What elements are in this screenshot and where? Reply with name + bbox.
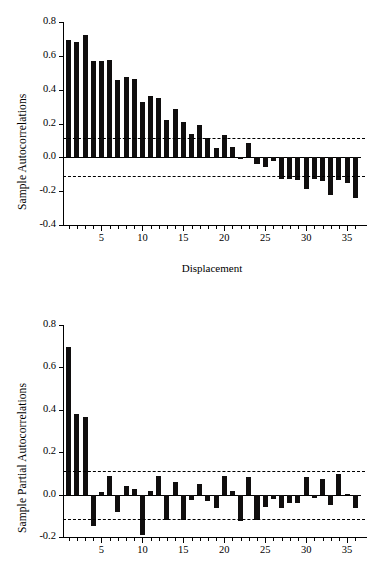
y-tick-label: 0.0 <box>26 150 56 161</box>
x-tick-minor <box>200 226 201 229</box>
bar <box>271 495 276 500</box>
x-tick-minor <box>331 538 332 541</box>
bar <box>336 474 341 495</box>
x-tick-minor <box>339 226 340 229</box>
bar <box>197 125 202 157</box>
x-tick-minor <box>151 538 152 541</box>
bar <box>304 157 309 188</box>
x-tick-minor <box>216 226 217 229</box>
bar <box>132 489 137 494</box>
y-tick <box>59 191 64 192</box>
x-tick-minor <box>93 538 94 541</box>
x-tick-minor <box>110 226 111 229</box>
y-tick-label: 0.8 <box>26 15 56 26</box>
acf-x-axis-label: Displacement <box>63 262 361 274</box>
bar <box>287 495 292 503</box>
x-tick-minor <box>159 226 160 229</box>
x-tick-minor <box>355 538 356 541</box>
bar <box>304 477 309 494</box>
bar <box>107 476 112 495</box>
bar <box>99 61 104 157</box>
bar <box>66 40 71 158</box>
x-tick-minor <box>298 538 299 541</box>
bar <box>263 495 268 507</box>
x-tick-major <box>101 226 102 231</box>
x-tick-label: 10 <box>127 544 157 555</box>
bar <box>328 495 333 505</box>
x-tick-major <box>101 538 102 543</box>
x-tick-minor <box>134 538 135 541</box>
y-tick <box>59 225 64 226</box>
x-tick-minor <box>77 538 78 541</box>
y-tick <box>59 90 64 91</box>
x-tick-minor <box>323 226 324 229</box>
confidence-band-line <box>63 471 365 472</box>
x-tick-label: 5 <box>86 232 116 243</box>
x-tick-minor <box>118 226 119 229</box>
bar <box>246 477 251 495</box>
bar <box>99 492 104 495</box>
bar <box>320 479 325 494</box>
x-tick-minor <box>314 226 315 229</box>
x-tick-major <box>265 226 266 231</box>
y-tick <box>59 537 64 538</box>
x-tick-minor <box>85 226 86 229</box>
bar <box>205 138 210 157</box>
bar <box>124 77 129 157</box>
x-tick-minor <box>134 226 135 229</box>
x-tick-minor <box>314 538 315 541</box>
x-tick-minor <box>355 226 356 229</box>
x-tick-minor <box>232 538 233 541</box>
bar <box>115 495 120 512</box>
y-tick-label: -0.4 <box>26 218 56 229</box>
bar <box>214 495 219 509</box>
x-tick-minor <box>257 226 258 229</box>
x-tick-minor <box>298 226 299 229</box>
y-axis-line <box>63 325 64 537</box>
x-tick-label: 25 <box>250 544 280 555</box>
x-axis-line <box>63 225 367 226</box>
bar <box>230 491 235 494</box>
bar <box>345 157 350 182</box>
bar <box>74 42 79 158</box>
x-tick-major <box>183 538 184 543</box>
x-tick-minor <box>249 226 250 229</box>
x-tick-minor <box>208 226 209 229</box>
bar <box>91 61 96 157</box>
y-tick-label: 0.8 <box>26 318 56 329</box>
x-tick-minor <box>77 226 78 229</box>
x-tick-minor <box>175 538 176 541</box>
x-axis-line <box>63 537 367 538</box>
bar <box>295 495 300 504</box>
bar <box>345 494 350 495</box>
bar <box>353 495 358 508</box>
x-tick-minor <box>126 226 127 229</box>
y-tick-label: 0.4 <box>26 83 56 94</box>
bar <box>107 60 112 157</box>
x-tick-label: 10 <box>127 232 157 243</box>
y-tick <box>59 325 64 326</box>
y-tick <box>59 56 64 57</box>
x-tick-major <box>224 226 225 231</box>
y-tick-label: 0.6 <box>26 49 56 60</box>
bar <box>254 157 259 164</box>
bar <box>148 491 153 494</box>
confidence-band-line <box>63 519 365 520</box>
bar <box>214 148 219 157</box>
bar <box>173 109 178 158</box>
bar <box>164 495 169 520</box>
x-tick-minor <box>167 226 168 229</box>
bar <box>353 157 358 198</box>
x-tick-minor <box>85 538 86 541</box>
x-tick-minor <box>282 226 283 229</box>
y-tick-label: 0.2 <box>26 445 56 456</box>
bar <box>254 495 259 521</box>
x-tick-minor <box>282 538 283 541</box>
bar <box>148 96 153 157</box>
x-tick-minor <box>249 538 250 541</box>
x-tick-minor <box>232 226 233 229</box>
bar <box>238 157 243 159</box>
y-tick <box>59 452 64 453</box>
x-tick-major <box>183 226 184 231</box>
bar <box>83 417 88 495</box>
